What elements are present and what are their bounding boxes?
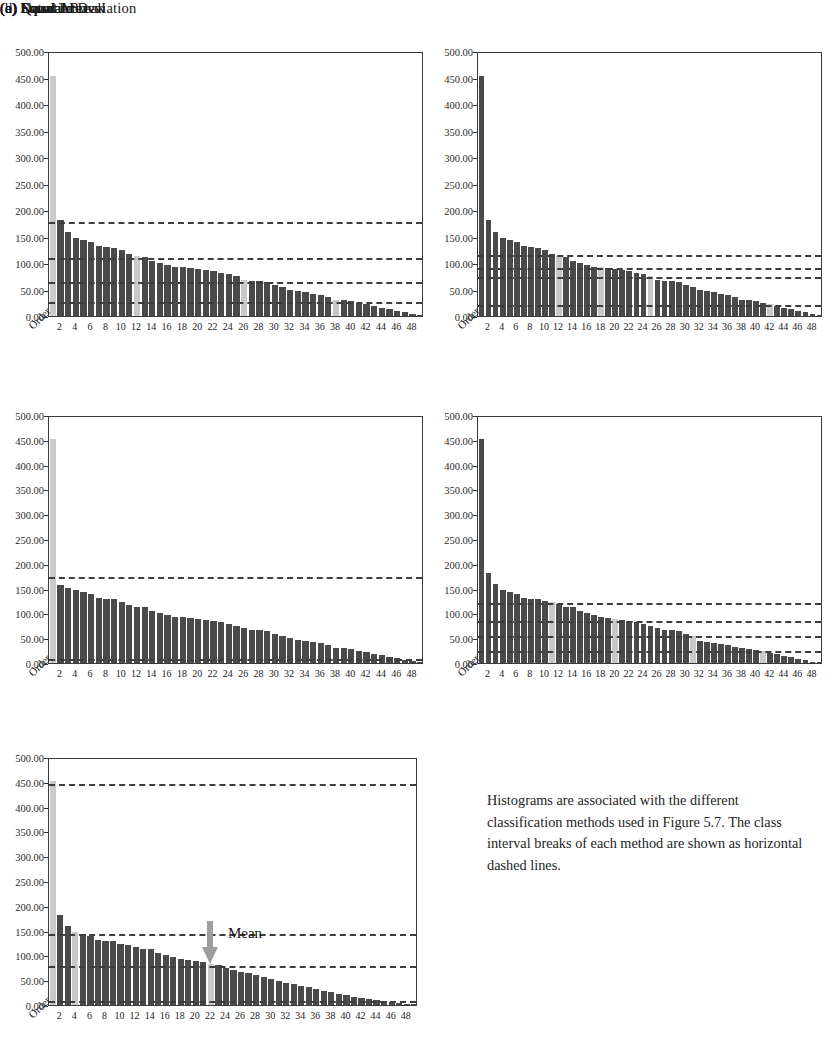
ytick-label-equal-area-1: 450.00 (431, 73, 473, 84)
plot-area-natural-break (48, 52, 423, 317)
class-break-line-natural-break-0 (49, 222, 422, 224)
bar (739, 300, 745, 316)
bar (180, 267, 186, 316)
bar (126, 254, 132, 316)
bar (402, 312, 408, 316)
xtick-label-equal-area-1: 4 (499, 321, 504, 332)
xtick-label-equal-area-16: 34 (708, 321, 718, 332)
xtick-label-equal-area-18: 38 (736, 321, 746, 332)
xtick-label-equal-interval-10: 22 (208, 668, 218, 679)
bar (626, 621, 632, 663)
xtick-label-natural-break-1: 4 (72, 321, 77, 332)
bar (241, 628, 247, 663)
xtick-label-natural-break-17: 36 (315, 321, 325, 332)
ytick-label-standard-deviation-7: 150.00 (2, 926, 44, 937)
bar (140, 949, 146, 1005)
ytick-label-quantile-8: 100.00 (431, 609, 473, 620)
ytick-label-equal-interval-0: 500.00 (2, 411, 44, 422)
bar (363, 304, 369, 316)
class-break-line-equal-interval-0 (49, 577, 422, 579)
ytick-label-quantile-1: 450.00 (431, 435, 473, 446)
bar-highlight (50, 781, 56, 1005)
xaxis-labels-standard-deviation: 2468101214161820222426283032343638404244… (48, 1010, 417, 1024)
bar (102, 941, 108, 1005)
bar-highlight (208, 964, 214, 1005)
chart-title-standard-deviation: (e) Standard Deviation (0, 0, 136, 17)
xaxis-labels-equal-area: 2468101214161820222426283032343638404244… (477, 321, 822, 335)
xtick-label-natural-break-21: 44 (376, 321, 386, 332)
xtick-label-standard-deviation-8: 18 (175, 1010, 185, 1021)
xtick-label-quantile-3: 8 (527, 668, 532, 679)
bar (396, 1003, 402, 1005)
bar (591, 267, 597, 316)
class-break-line-natural-break-3 (49, 302, 422, 304)
xtick-label-equal-area-23: 48 (806, 321, 816, 332)
ytick-label-natural-break-7: 150.00 (2, 232, 44, 243)
xtick-label-quantile-14: 30 (680, 668, 690, 679)
bar (669, 630, 675, 663)
bar (187, 618, 193, 663)
bar (781, 656, 787, 663)
xtick-label-standard-deviation-1: 4 (72, 1010, 77, 1021)
xtick-label-equal-interval-0: 2 (57, 668, 62, 679)
bar (157, 613, 163, 663)
xtick-label-natural-break-20: 42 (361, 321, 371, 332)
bar (795, 659, 801, 663)
bar (218, 273, 224, 316)
xtick-label-standard-deviation-7: 16 (160, 1010, 170, 1021)
bar (563, 257, 569, 316)
ytick-label-equal-area-6: 200.00 (431, 206, 473, 217)
xtick-label-natural-break-16: 34 (299, 321, 309, 332)
xtick-label-equal-interval-3: 8 (103, 668, 108, 679)
class-break-line-standard-deviation-0 (49, 784, 416, 786)
bar (598, 617, 604, 663)
xtick-label-natural-break-7: 16 (162, 321, 172, 332)
bar (164, 615, 170, 663)
mean-arrow-icon (201, 921, 219, 965)
bar (264, 282, 270, 316)
xtick-label-equal-area-11: 24 (637, 321, 647, 332)
bar-highlight (50, 439, 56, 663)
ytick-label-natural-break-0: 500.00 (2, 47, 44, 58)
xtick-label-quantile-7: 16 (581, 668, 591, 679)
ytick-label-natural-break-8: 100.00 (2, 259, 44, 270)
xaxis-labels-natural-break: 2468101214161820222426283032343638404244… (48, 321, 423, 335)
bar-highlight (598, 267, 604, 316)
bar-highlight (612, 619, 618, 663)
xtick-label-quantile-16: 34 (708, 668, 718, 679)
xtick-label-natural-break-13: 28 (253, 321, 263, 332)
xtick-label-quantile-8: 18 (595, 668, 605, 679)
bar (223, 968, 229, 1005)
bar (795, 311, 801, 316)
class-break-line-standard-deviation-2 (49, 966, 416, 968)
bar (409, 661, 415, 663)
bar-highlight (134, 256, 140, 316)
ytick-label-natural-break-3: 350.00 (2, 126, 44, 137)
xtick-label-standard-deviation-9: 20 (190, 1010, 200, 1021)
bar (233, 626, 239, 663)
xtick-label-equal-area-15: 32 (694, 321, 704, 332)
xtick-label-standard-deviation-6: 14 (145, 1010, 155, 1021)
bar (73, 590, 79, 663)
xtick-label-quantile-21: 44 (778, 668, 788, 679)
class-break-line-quantile-1 (478, 621, 821, 623)
class-break-line-standard-deviation-3 (49, 1001, 416, 1003)
bar (163, 955, 169, 1005)
xtick-label-equal-interval-5: 12 (131, 668, 141, 679)
xtick-label-natural-break-10: 22 (208, 321, 218, 332)
xtick-label-equal-area-10: 22 (623, 321, 633, 332)
plot-area-equal-area (477, 52, 822, 317)
bar (148, 949, 154, 1005)
bar (149, 611, 155, 663)
bar (676, 282, 682, 316)
class-break-line-equal-area-0 (478, 255, 821, 257)
bar (180, 617, 186, 663)
ytick-label-standard-deviation-1: 450.00 (2, 777, 44, 788)
bar (781, 308, 787, 316)
ytick-label-standard-deviation-6: 200.00 (2, 901, 44, 912)
bar (57, 585, 63, 663)
xtick-label-equal-area-6: 14 (567, 321, 577, 332)
bar (203, 270, 209, 316)
bar (142, 257, 148, 316)
bar (774, 306, 780, 316)
